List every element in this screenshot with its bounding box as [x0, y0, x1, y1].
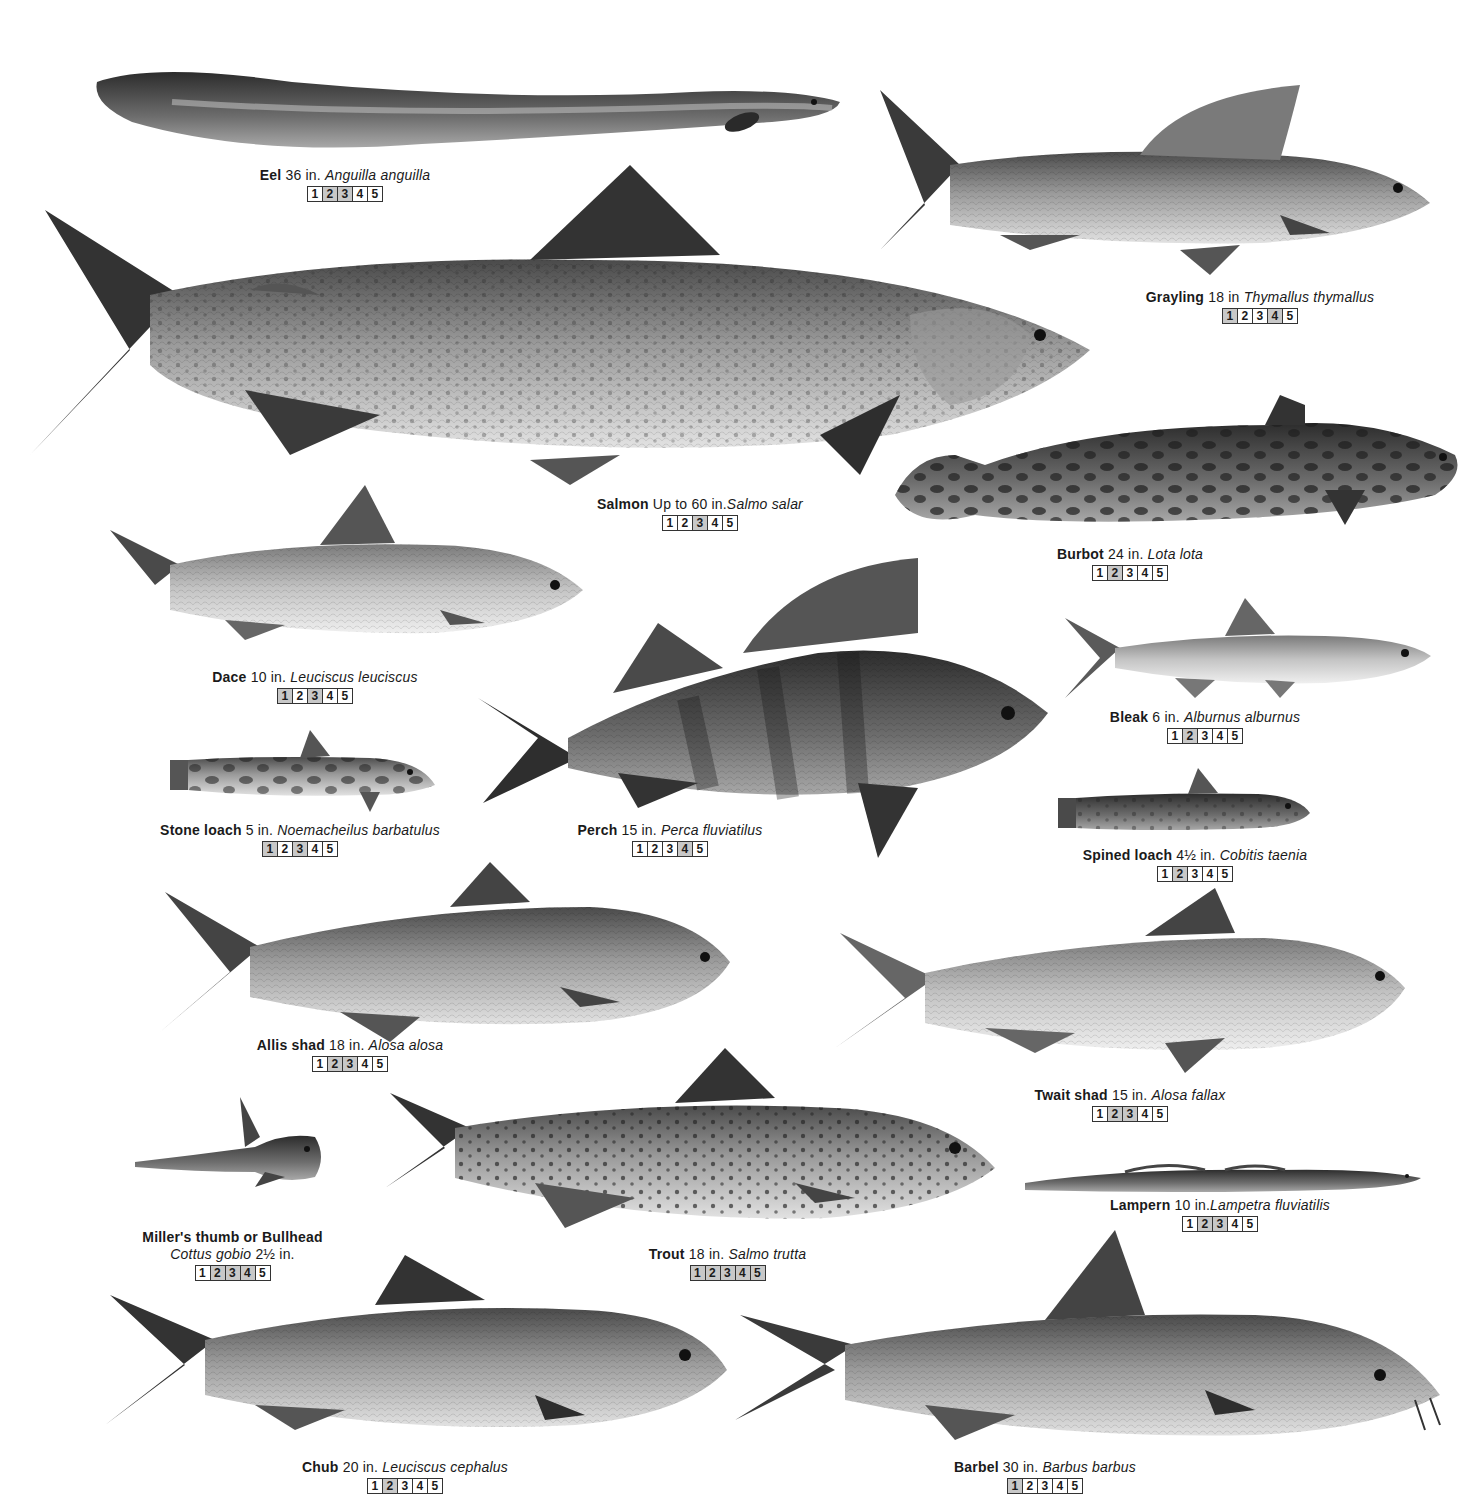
size: 10 in. [251, 669, 286, 685]
size: 18 in [1208, 289, 1239, 305]
lampern-illustration [1025, 1158, 1423, 1196]
latin-name: Alburnus alburnus [1184, 709, 1300, 725]
region-box-1: 1 [1223, 309, 1237, 323]
latin-name: Barbus barbus [1042, 1459, 1136, 1475]
region-boxes: 12345 [312, 1056, 388, 1072]
region-box-3: 3 [662, 842, 677, 856]
region-box-5: 5 [427, 1479, 442, 1493]
common-name: Perch [577, 822, 617, 838]
region-box-4: 4 [1202, 867, 1217, 881]
latin-name: Perca fluviatilus [661, 822, 762, 838]
region-box-4: 4 [1267, 309, 1282, 323]
caption-lampern: Lampern 10 in.Lampetra fluviatilis 12345 [1080, 1197, 1360, 1232]
region-box-3: 3 [1212, 1217, 1227, 1231]
caption-stone-loach: Stone loach 5 in. Noemacheilus barbatulu… [135, 822, 465, 857]
caption-salmon: Salmon Up to 60 in.Salmo salar 12345 [570, 496, 830, 531]
region-box-2: 2 [292, 689, 307, 703]
allis-shad-illustration [160, 862, 732, 1052]
region-boxes: 12345 [262, 841, 338, 857]
latin-name: Salmo salar [727, 496, 803, 512]
region-box-4: 4 [677, 842, 692, 856]
region-box-1: 1 [278, 689, 292, 703]
size: 24 in. [1108, 546, 1143, 562]
chub-illustration [105, 1255, 730, 1455]
common-name: Barbel [954, 1459, 999, 1475]
eel-illustration [92, 62, 844, 162]
caption-perch: Perch 15 in. Perca fluviatilus 12345 [555, 822, 785, 857]
common-name: Twait shad [1035, 1087, 1108, 1103]
region-box-5: 5 [692, 842, 707, 856]
caption-grayling: Grayling 18 in Thymallus thymallus 12345 [1110, 289, 1410, 324]
region-box-2: 2 [277, 842, 292, 856]
latin-name: Cobitis taenia [1220, 847, 1308, 863]
region-box-2: 2 [1107, 566, 1122, 580]
caption-bleak: Bleak 6 in. Alburnus alburnus 12345 [1080, 709, 1330, 744]
region-boxes: 12345 [1092, 565, 1168, 581]
region-boxes: 12345 [1222, 308, 1298, 324]
region-boxes: 12345 [367, 1478, 443, 1494]
region-boxes: 12345 [1157, 866, 1233, 882]
region-box-4: 4 [357, 1057, 372, 1071]
bullhead-illustration [135, 1097, 327, 1187]
caption-dace: Dace 10 in. Leuciscus leuciscus 12345 [190, 669, 440, 704]
size: 15 in. [1112, 1087, 1147, 1103]
stone-loach-illustration [170, 730, 440, 815]
region-box-4: 4 [1137, 1107, 1152, 1121]
region-box-2: 2 [1172, 867, 1187, 881]
region-box-1: 1 [633, 842, 647, 856]
region-box-1: 1 [1008, 1479, 1022, 1493]
region-box-5: 5 [1282, 309, 1297, 323]
region-box-2: 2 [1182, 729, 1197, 743]
region-box-3: 3 [1197, 729, 1212, 743]
region-box-1: 1 [1093, 566, 1107, 580]
size: 20 in. [343, 1459, 378, 1475]
region-box-1: 1 [368, 1479, 382, 1493]
region-box-3: 3 [342, 1057, 357, 1071]
region-box-4: 4 [707, 516, 722, 530]
common-name: Miller's thumb or Bullhead [125, 1229, 340, 1246]
burbot-illustration [895, 395, 1466, 555]
region-box-4: 4 [1227, 1217, 1242, 1231]
region-box-4: 4 [1137, 566, 1152, 580]
spined-loach-illustration [1058, 768, 1313, 843]
region-box-4: 4 [307, 842, 322, 856]
perch-illustration [478, 558, 1056, 863]
region-boxes: 12345 [277, 688, 353, 704]
region-box-3: 3 [307, 689, 322, 703]
region-box-4: 4 [412, 1479, 427, 1493]
common-name: Spined loach [1083, 847, 1173, 863]
region-box-2: 2 [1022, 1479, 1037, 1493]
region-box-3: 3 [292, 842, 307, 856]
common-name: Stone loach [160, 822, 242, 838]
latin-name: Lota lota [1148, 546, 1204, 562]
latin-name: Leuciscus leuciscus [290, 669, 418, 685]
region-boxes: 12345 [1092, 1106, 1168, 1122]
region-box-2: 2 [1237, 309, 1252, 323]
caption-barbel: Barbel 30 in. Barbus barbus 12345 [930, 1459, 1160, 1494]
region-box-4: 4 [322, 689, 337, 703]
region-box-5: 5 [337, 689, 352, 703]
region-boxes: 12345 [1007, 1478, 1083, 1494]
region-box-2: 2 [647, 842, 662, 856]
caption-burbot: Burbot 24 in. Lota lota 12345 [1030, 546, 1230, 581]
latin-name: Noemacheilus barbatulus [277, 822, 440, 838]
common-name: Chub [302, 1459, 339, 1475]
region-box-5: 5 [722, 516, 737, 530]
region-box-3: 3 [1187, 867, 1202, 881]
region-box-4: 4 [1052, 1479, 1067, 1493]
region-boxes: 12345 [632, 841, 708, 857]
size: 18 in. [329, 1037, 364, 1053]
caption-chub: Chub 20 in. Leuciscus cephalus 12345 [280, 1459, 530, 1494]
barbel-illustration [735, 1230, 1445, 1460]
latin-name: Thymallus thymallus [1244, 289, 1375, 305]
common-name: Dace [212, 669, 246, 685]
region-box-1: 1 [1158, 867, 1172, 881]
region-box-4: 4 [1212, 729, 1227, 743]
region-box-2: 2 [1197, 1217, 1212, 1231]
region-box-3: 3 [1037, 1479, 1052, 1493]
caption-twait-shad: Twait shad 15 in. Alosa fallax 12345 [1010, 1087, 1250, 1122]
region-box-3: 3 [1122, 566, 1137, 580]
region-box-2: 2 [1107, 1107, 1122, 1121]
region-box-5: 5 [1152, 566, 1167, 580]
size: 4½ in. [1176, 847, 1215, 863]
